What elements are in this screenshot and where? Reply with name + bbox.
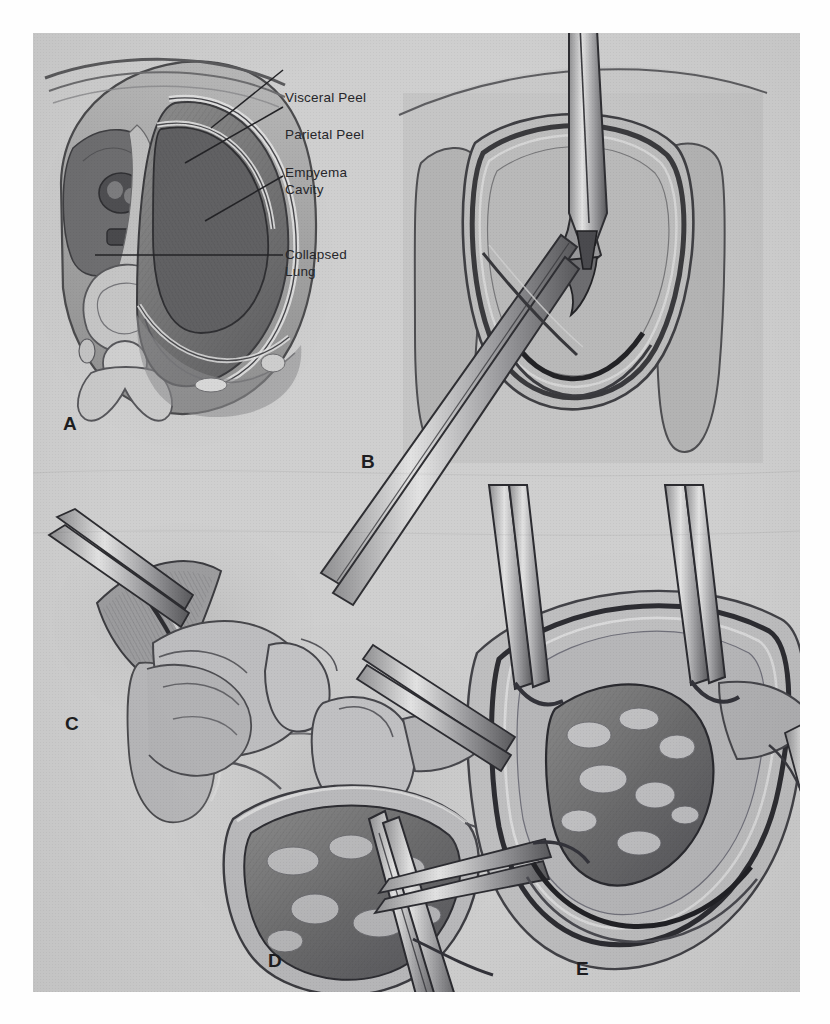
panel-letter-b: B (361, 451, 375, 473)
label-visceral-peel: Visceral Peel (285, 90, 366, 106)
panel-letter-d: D (268, 950, 282, 972)
label-collapsed-lung-line1: Collapsed (285, 247, 347, 263)
illustration-plate: Visceral Peel Parietal Peel Empyema Cavi… (33, 33, 800, 992)
label-empyema-cavity-line1: Empyema (285, 165, 347, 181)
label-parietal-peel: Parietal Peel (285, 127, 364, 143)
panel-letter-a: A (63, 413, 77, 435)
plate-artwork (33, 33, 800, 992)
figure-page: Visceral Peel Parietal Peel Empyema Cavi… (0, 0, 830, 1024)
panel-letter-e: E (576, 958, 589, 980)
panel-e-artwork (357, 485, 800, 969)
label-collapsed-lung-line2: Lung (285, 264, 316, 280)
label-empyema-cavity-line2: Cavity (285, 182, 324, 198)
panel-letter-c: C (65, 713, 79, 735)
